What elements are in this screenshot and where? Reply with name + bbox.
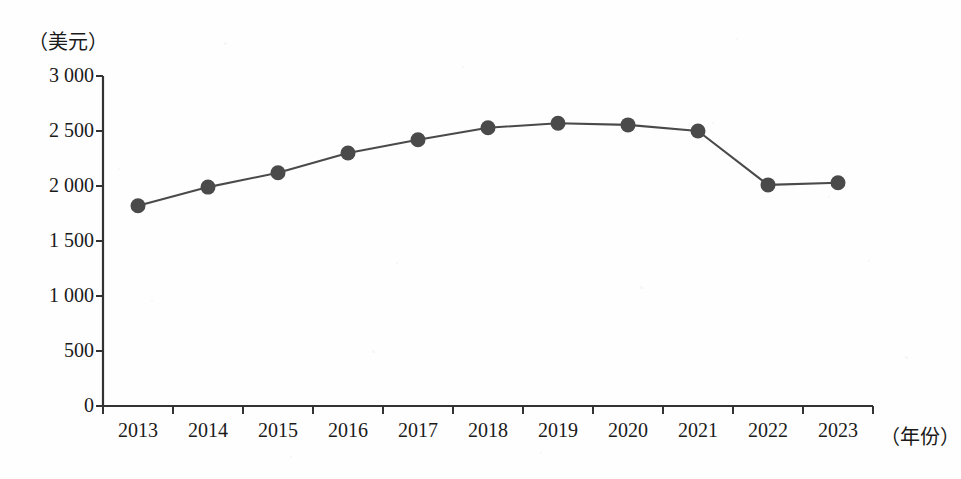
paper-speck bbox=[372, 350, 375, 353]
paper-speck bbox=[151, 300, 153, 302]
paper-speck bbox=[736, 38, 738, 40]
data-point-2016 bbox=[341, 146, 356, 161]
paper-speck bbox=[462, 66, 464, 68]
plot-area bbox=[0, 0, 961, 479]
data-point-2022 bbox=[761, 177, 776, 192]
paper-speck bbox=[828, 196, 830, 198]
data-point-2015 bbox=[271, 165, 286, 180]
data-point-2023 bbox=[831, 175, 846, 190]
paper-speck bbox=[60, 238, 63, 241]
paper-speck bbox=[640, 286, 643, 289]
data-line bbox=[138, 123, 838, 206]
data-point-2021 bbox=[691, 124, 706, 139]
paper-speck bbox=[540, 452, 542, 454]
paper-speck bbox=[290, 456, 292, 458]
data-point-2013 bbox=[131, 198, 146, 213]
paper-speck bbox=[396, 262, 398, 264]
data-point-2018 bbox=[481, 120, 496, 135]
data-point-2019 bbox=[551, 116, 566, 131]
paper-speck bbox=[712, 122, 714, 124]
data-point-2020 bbox=[621, 117, 636, 132]
data-point-2014 bbox=[201, 180, 216, 195]
paper-speck bbox=[868, 260, 870, 262]
line-chart: （美元） （年份） 05001 0001 5002 0002 5003 000 … bbox=[0, 0, 961, 479]
paper-speck bbox=[224, 42, 227, 45]
data-point-markers bbox=[131, 116, 846, 214]
x-axis-ticks bbox=[103, 406, 873, 414]
paper-speck bbox=[118, 168, 120, 170]
data-point-2017 bbox=[411, 132, 426, 147]
paper-speck bbox=[905, 356, 908, 359]
